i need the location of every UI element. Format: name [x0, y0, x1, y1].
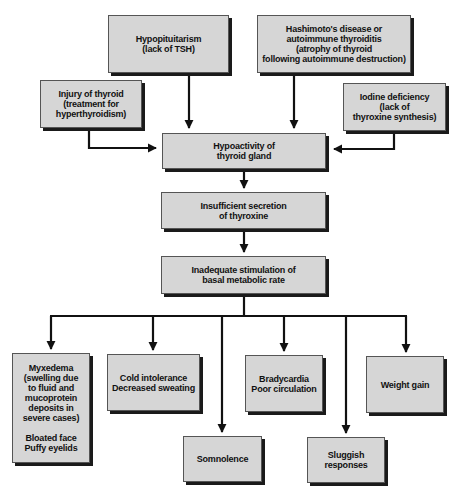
- effect-weight-gain-box: Weight gain: [366, 356, 444, 413]
- effect-bradycardia-box: Bradycardia Poor circulation: [245, 355, 323, 412]
- effect-somnolence-box: Somnolence: [183, 436, 262, 482]
- cause-hypopituitarism-box: Hypopituitarism (lack of TSH): [108, 15, 229, 73]
- arrow-iodine-to-hypoactivity: [334, 131, 394, 149]
- arrow-injury-to-hypoactivity: [89, 129, 156, 148]
- cause-injury-label: Injury of thyroid (treatment for hyperth…: [56, 89, 126, 119]
- effect-myxedema-label: Myxedema (swelling due to fluid and muco…: [23, 363, 79, 453]
- effect-sluggish-box: Sluggish responses: [307, 437, 385, 483]
- insufficient-secretion-label: Insufficient secretion of thyroxine: [200, 201, 286, 221]
- cause-hashimoto-box: Hashimoto's disease or autoimmune thyroi…: [257, 15, 411, 73]
- cause-iodine-box: Iodine deficiency (lack of thyroxine syn…: [343, 83, 446, 131]
- hypoactivity-label: Hypoactivity of thyroid gland: [213, 141, 275, 161]
- cause-hashimoto-label: Hashimoto's disease or autoimmune thyroi…: [262, 24, 405, 64]
- effect-cold-label: Cold intolerance Decreased sweating: [112, 373, 195, 393]
- cause-hypopituitarism-label: Hypopituitarism (lack of TSH): [136, 34, 202, 54]
- effect-somnolence-label: Somnolence: [197, 454, 249, 464]
- hypoactivity-box: Hypoactivity of thyroid gland: [162, 133, 326, 169]
- inadequate-stimulation-box: Inadequate stimulation of basal metaboli…: [161, 256, 326, 294]
- effect-cold-box: Cold intolerance Decreased sweating: [107, 354, 200, 411]
- effect-bradycardia-label: Bradycardia Poor circulation: [251, 374, 316, 394]
- inadequate-stimulation-label: Inadequate stimulation of basal metaboli…: [191, 265, 295, 285]
- insufficient-secretion-box: Insufficient secretion of thyroxine: [161, 192, 326, 229]
- hypothyroidism-flowchart: Hypopituitarism (lack of TSH) Hashimoto'…: [0, 0, 466, 498]
- effect-weight-gain-label: Weight gain: [381, 380, 430, 390]
- cause-iodine-label: Iodine deficiency (lack of thyroxine syn…: [353, 92, 437, 122]
- effect-myxedema-box: Myxedema (swelling due to fluid and muco…: [12, 353, 90, 463]
- effect-sluggish-label: Sluggish responses: [324, 450, 367, 470]
- cause-injury-box: Injury of thyroid (treatment for hyperth…: [40, 80, 142, 128]
